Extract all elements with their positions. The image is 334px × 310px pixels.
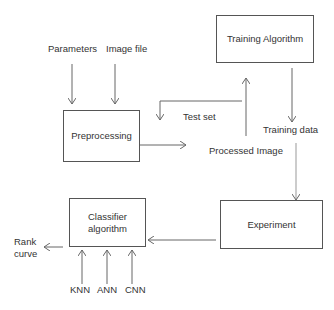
- parameters-label: Parameters: [48, 43, 97, 55]
- classifier-label-line1: Classifier: [88, 211, 127, 223]
- rank-label: Rank: [14, 236, 36, 248]
- curve-label: curve: [14, 248, 37, 260]
- preprocessing-box: Preprocessing: [63, 110, 140, 162]
- experiment-label: Experiment: [247, 219, 295, 231]
- experiment-box: Experiment: [220, 200, 323, 249]
- classifier-label-line2: algorithm: [88, 223, 127, 235]
- ann-label: ANN: [97, 284, 117, 296]
- image-file-label: Image file: [106, 43, 147, 55]
- training-algorithm-label: Training Algorithm: [227, 33, 303, 45]
- classifier-algorithm-box: Classifier algorithm: [69, 198, 146, 247]
- processed-image-label: Processed Image: [209, 145, 283, 157]
- training-data-label: Training data: [263, 124, 318, 136]
- cnn-label: CNN: [125, 284, 146, 296]
- knn-label: KNN: [70, 284, 90, 296]
- preprocessing-label: Preprocessing: [71, 130, 132, 142]
- test-set-label: Test set: [183, 111, 216, 123]
- training-algorithm-box: Training Algorithm: [216, 15, 314, 63]
